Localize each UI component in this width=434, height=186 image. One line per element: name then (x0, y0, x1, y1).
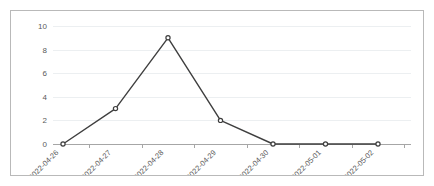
x-axis-tick-label: 2022-04-26 (27, 148, 60, 175)
y-axis-tick-label: 2 (43, 116, 48, 125)
data-point-marker[interactable] (166, 36, 170, 40)
chart-frame: 0246810 2022-04-262022-04-272022-04-2820… (10, 10, 424, 176)
y-axis-tick-label: 0 (43, 140, 48, 149)
y-axis-tick-label: 6 (43, 69, 48, 78)
data-point-marker[interactable] (218, 118, 222, 122)
y-axis-tick-label: 4 (43, 93, 48, 102)
x-axis-tick-label: 2022-04-30 (237, 148, 270, 175)
data-series-group (63, 38, 378, 144)
x-axis-tick-label: 2022-04-28 (132, 148, 165, 175)
y-axis-tick-labels: 0246810 (38, 22, 47, 149)
chart-plot-surface: 0246810 2022-04-262022-04-272022-04-2820… (11, 11, 423, 175)
series-line-path (63, 38, 378, 144)
x-axis-tick-label: 2022-05-01 (289, 148, 322, 175)
line-chart: 0246810 2022-04-262022-04-272022-04-2820… (11, 11, 423, 175)
data-point-markers (61, 36, 380, 146)
data-point-marker[interactable] (376, 142, 380, 146)
y-axis-tick-label: 10 (38, 22, 47, 31)
y-axis-tick-label: 8 (43, 46, 48, 55)
x-axis-tick-label: 2022-05-02 (342, 148, 375, 175)
x-axis-tick-labels: 2022-04-262022-04-272022-04-282022-04-29… (27, 148, 375, 175)
data-point-marker[interactable] (61, 142, 65, 146)
x-axis-tick-label: 2022-04-27 (79, 148, 112, 175)
data-point-marker[interactable] (323, 142, 327, 146)
data-point-marker[interactable] (113, 107, 117, 111)
x-axis-tick-label: 2022-04-29 (184, 148, 217, 175)
data-point-marker[interactable] (271, 142, 275, 146)
gridlines-group (53, 27, 411, 121)
